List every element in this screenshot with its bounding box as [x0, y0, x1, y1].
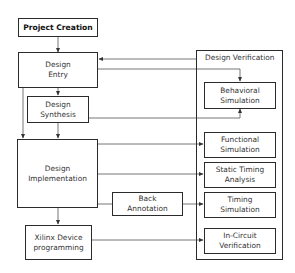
node-functional-simulation: Functional Simulation: [204, 132, 276, 158]
node-design-implementation: Design Implementation: [17, 139, 98, 208]
node-label: Design Entry: [45, 60, 71, 79]
node-label: Functional Simulation: [220, 135, 259, 154]
node-design-synthesis: Design Synthesis: [27, 96, 89, 123]
node-label: Design Synthesis: [40, 100, 76, 119]
node-static-timing-analysis: Static Timing Analysis: [204, 162, 276, 188]
node-label: Behavioral Simulation: [220, 86, 259, 105]
node-behavioral-simulation: Behavioral Simulation: [204, 82, 276, 109]
design-verification-title: Design Verification: [205, 53, 274, 62]
node-design-entry: Design Entry: [18, 52, 98, 88]
node-label: Static Timing Analysis: [216, 165, 264, 184]
node-timing-simulation: Timing Simulation: [204, 192, 276, 218]
node-label: Timing Simulation: [220, 195, 259, 214]
node-label: In-Circuit Verification: [219, 231, 261, 250]
node-label: Design Implementation: [28, 164, 87, 183]
node-label: Back Annotation: [127, 194, 168, 213]
node-project-creation: Project Creation: [18, 18, 98, 37]
node-in-circuit-verification: In-Circuit Verification: [204, 228, 276, 254]
node-xilinx-device-programming: Xilinx Device programming: [25, 225, 92, 260]
node-back-annotation: Back Annotation: [112, 192, 183, 216]
node-label: Xilinx Device programming: [33, 233, 83, 252]
node-label: Project Creation: [23, 23, 93, 33]
